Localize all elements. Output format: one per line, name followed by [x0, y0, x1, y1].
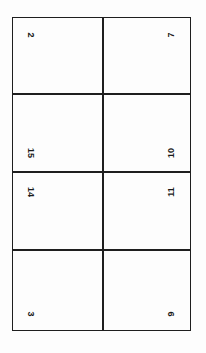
- imposition-grid: [12, 17, 191, 331]
- scanned-page: 2 15 14 3 7 10 11 9: [0, 0, 206, 353]
- panel-number: 3: [26, 311, 35, 316]
- panel-number: 14: [26, 187, 35, 197]
- row-divider-3: [13, 249, 190, 251]
- row-divider-1: [13, 93, 190, 95]
- column-divider: [102, 18, 104, 330]
- panel-number: 11: [167, 187, 176, 197]
- panel-number: 7: [167, 32, 176, 37]
- panel-number: 15: [26, 148, 35, 158]
- panel-number: 2: [26, 32, 35, 37]
- panel-number: 9: [167, 311, 176, 316]
- row-divider-2: [13, 171, 190, 173]
- panel-number: 10: [167, 148, 176, 158]
